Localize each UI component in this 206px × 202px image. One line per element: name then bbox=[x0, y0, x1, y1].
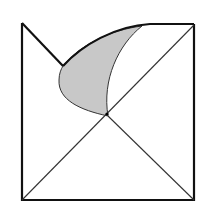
corner-cut-edge bbox=[22, 23, 63, 66]
marked-point bbox=[105, 112, 108, 115]
diagram-figure bbox=[0, 0, 206, 202]
shaded-region bbox=[59, 26, 142, 116]
diagonal-center-br bbox=[108, 116, 194, 200]
geometry-svg bbox=[0, 0, 206, 202]
